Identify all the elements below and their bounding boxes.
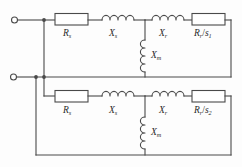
label-upper-stator-resistance: Rs	[62, 28, 72, 39]
label-upper-magnetizing-reactance: Xm	[150, 50, 162, 61]
label-upper-stator-reactance: Xs	[108, 28, 118, 39]
circuit-diagram-figure: Rs Xs Xm Xr	[0, 0, 242, 167]
input-terminal-top	[12, 17, 45, 23]
label-upper-rotor-reactance: Xr	[158, 28, 168, 39]
inductor-upper-magnetizing-reactance	[140, 40, 145, 72]
inductor-lower-magnetizing-reactance	[140, 117, 145, 149]
label-lower-magnetizing-reactance: Xm	[150, 127, 162, 138]
inductor-upper-rotor-reactance	[152, 15, 184, 20]
inductor-lower-rotor-reactance	[152, 91, 184, 96]
resistor-upper-stator	[55, 14, 88, 26]
resistor-lower-rotor-over-slip2	[192, 91, 225, 103]
inductor-lower-stator-reactance	[102, 91, 134, 96]
resistor-upper-rotor-over-slip1	[192, 14, 225, 26]
label-lower-stator-resistance: Rs	[62, 105, 72, 116]
label-lower-rotor-resistance-slip2: Rr/s2	[193, 105, 212, 116]
label-lower-stator-reactance: Xs	[108, 105, 118, 116]
inductor-upper-stator-reactance	[102, 15, 134, 20]
label-lower-rotor-reactance: Xr	[158, 105, 168, 116]
label-upper-rotor-resistance-slip1: Rr/s1	[193, 28, 212, 39]
circuit-schematic-canvas: Rs Xs Xm Xr	[0, 0, 242, 167]
resistor-lower-stator	[55, 91, 88, 103]
input-terminal-bottom	[11, 74, 37, 80]
